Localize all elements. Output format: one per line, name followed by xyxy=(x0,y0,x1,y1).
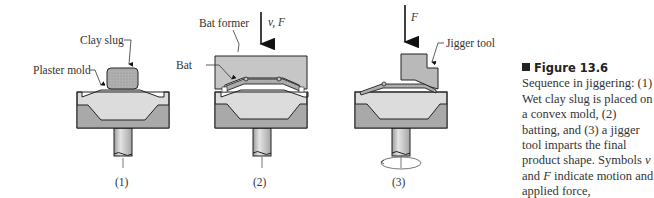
label-plaster-mold: Plaster mold xyxy=(33,64,91,76)
clay-slug xyxy=(107,68,138,89)
label-motion-force: v, F xyxy=(268,16,286,29)
label-bat-former: Bat former xyxy=(199,17,249,29)
label-force: F xyxy=(410,11,419,23)
symbol-F: F xyxy=(543,169,551,183)
caption-text-2: and xyxy=(522,169,543,183)
symbol-v: v xyxy=(645,153,651,167)
label-jigger-tool: Jigger tool xyxy=(446,37,495,50)
stage-number-3: (3) xyxy=(392,176,406,189)
stage-2: Bat former Bat v, F (2) xyxy=(176,12,308,189)
stage-1: Clay slug Plaster mold (1) xyxy=(33,34,169,189)
jiggering-diagram: Clay slug Plaster mold (1) Bat former Ba… xyxy=(0,0,520,198)
figure-title: Figure 13.6 xyxy=(534,61,608,75)
label-bat: Bat xyxy=(176,59,193,71)
stage-number-2: (2) xyxy=(253,176,267,189)
caption-text-1: Sequence in jiggering: (1) Wet clay slug… xyxy=(522,76,653,167)
shaft xyxy=(114,128,132,156)
label-clay-slug: Clay slug xyxy=(80,34,124,47)
stage-3: Jigger tool F (3) xyxy=(355,5,495,189)
figure-caption: Figure 13.6 Sequence in jiggering: (1) W… xyxy=(522,61,654,198)
stage-number-1: (1) xyxy=(115,176,129,189)
caption-marker-icon xyxy=(522,63,530,71)
